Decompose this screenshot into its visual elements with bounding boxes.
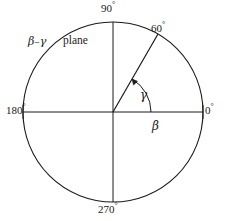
degree-sign-60: °: [162, 20, 165, 29]
angle-label-270-value: 270: [98, 203, 115, 215]
diagram-canvas: [0, 0, 228, 221]
angle-label-0: 0°: [205, 105, 214, 116]
angle-label-270: 270°: [98, 204, 118, 215]
angle-label-60: 60°: [151, 23, 165, 34]
gamma-symbol-label: γ: [140, 89, 147, 101]
degree-sign-270: °: [115, 201, 118, 210]
angle-label-90: 90°: [101, 3, 115, 14]
beta-symbol-label: β: [152, 120, 159, 132]
degree-sign-180: °: [23, 102, 26, 111]
plane-annotation-symbols: β–γ: [28, 36, 46, 47]
gamma-ray-60-degrees: [113, 34, 158, 112]
beta-gamma-plane-figure: 90° 60° 0° 180° 270° γ β β–γ plane: [0, 0, 228, 221]
degree-sign-90: °: [112, 0, 115, 9]
plane-annotation-word: plane: [63, 35, 88, 47]
angle-label-180-value: 180: [6, 104, 23, 116]
angle-label-180: 180°: [6, 105, 26, 116]
angle-label-90-value: 90: [101, 2, 112, 14]
angle-label-60-value: 60: [151, 22, 162, 34]
gamma-arc-arrowhead: [132, 79, 137, 85]
degree-sign-0: °: [211, 102, 214, 111]
